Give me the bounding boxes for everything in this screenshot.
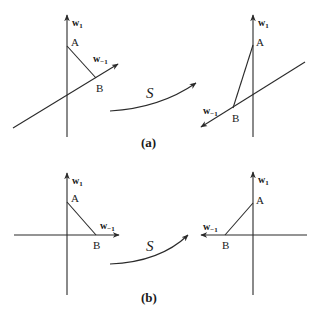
- point-a-label: A: [256, 36, 264, 48]
- w1-axis-label: w1: [258, 174, 269, 187]
- panel-a-after: w1 w−1 A B: [201, 15, 305, 137]
- panel-b: w1 w−1 A B S w1 w−1 A B (b): [14, 172, 307, 305]
- w-1-axis-label: w−1: [203, 105, 218, 118]
- segment-ab: [225, 203, 253, 235]
- transform-s-arrow-b: S: [110, 235, 188, 264]
- point-a-label: A: [71, 192, 79, 204]
- panel-b-after: w1 w−1 A B: [201, 172, 307, 295]
- panel-b-caption: (b): [141, 290, 157, 305]
- transform-s-arrow-a: S: [110, 83, 196, 111]
- point-b-label: B: [222, 239, 229, 251]
- panel-a: w1 w−1 A B S w1 w−1 A B (a): [13, 15, 305, 150]
- transform-label: S: [146, 238, 154, 254]
- w-1-axis-label: w−1: [93, 53, 108, 66]
- segment-ab: [233, 45, 253, 108]
- segment-ab: [67, 202, 96, 235]
- panel-a-before: w1 w−1 A B: [13, 15, 118, 137]
- figure-canvas: w1 w−1 A B S w1 w−1 A B (a) w1: [0, 0, 322, 310]
- point-b-label: B: [232, 112, 239, 124]
- w1-axis-label: w1: [72, 17, 83, 30]
- w1-axis-label: w1: [72, 175, 83, 188]
- w-1-axis-label: w−1: [100, 220, 115, 233]
- panel-b-before: w1 w−1 A B: [14, 173, 119, 295]
- transform-label: S: [146, 85, 154, 101]
- w-1-axis: [13, 64, 118, 128]
- point-b-label: B: [93, 239, 100, 251]
- point-a-label: A: [71, 36, 79, 48]
- w1-axis-label: w1: [258, 17, 269, 30]
- point-a-label: A: [256, 194, 264, 206]
- segment-ab: [67, 46, 96, 78]
- point-b-label: B: [96, 82, 103, 94]
- panel-a-caption: (a): [141, 135, 156, 150]
- w-1-axis-label: w−1: [203, 221, 218, 234]
